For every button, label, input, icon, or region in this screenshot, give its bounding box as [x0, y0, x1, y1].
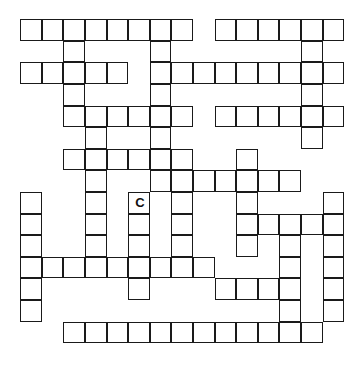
- crossword-cell[interactable]: [20, 19, 42, 41]
- crossword-cell[interactable]: [215, 19, 237, 41]
- crossword-cell[interactable]: [85, 19, 107, 41]
- crossword-cell[interactable]: [128, 106, 150, 128]
- crossword-cell[interactable]: [171, 170, 193, 192]
- crossword-cell[interactable]: [128, 149, 150, 171]
- crossword-cell[interactable]: [20, 62, 42, 84]
- crossword-cell[interactable]: [128, 322, 150, 344]
- crossword-cell[interactable]: [150, 106, 172, 128]
- crossword-cell[interactable]: [301, 106, 323, 128]
- crossword-cell[interactable]: [63, 149, 85, 171]
- crossword-cell[interactable]: [215, 322, 237, 344]
- crossword-cell[interactable]: [279, 19, 301, 41]
- crossword-cell[interactable]: [236, 170, 258, 192]
- crossword-cell[interactable]: [279, 257, 301, 279]
- crossword-cell[interactable]: [171, 214, 193, 236]
- crossword-cell[interactable]: [323, 214, 345, 236]
- crossword-cell[interactable]: [236, 192, 258, 214]
- crossword-cell[interactable]: [258, 106, 280, 128]
- crossword-cell[interactable]: [150, 19, 172, 41]
- crossword-cell[interactable]: [301, 84, 323, 106]
- crossword-cell[interactable]: [171, 235, 193, 257]
- crossword-cell[interactable]: [150, 41, 172, 63]
- crossword-cell[interactable]: [20, 214, 42, 236]
- crossword-cell[interactable]: [20, 300, 42, 322]
- crossword-cell[interactable]: [85, 170, 107, 192]
- crossword-cell[interactable]: [63, 62, 85, 84]
- crossword-cell[interactable]: [279, 106, 301, 128]
- crossword-cell[interactable]: [193, 170, 215, 192]
- crossword-cell[interactable]: [85, 192, 107, 214]
- crossword-cell[interactable]: [323, 19, 345, 41]
- crossword-cell[interactable]: [301, 322, 323, 344]
- crossword-cell[interactable]: [107, 19, 129, 41]
- crossword-cell[interactable]: [150, 62, 172, 84]
- crossword-cell[interactable]: [279, 62, 301, 84]
- crossword-cell[interactable]: [215, 62, 237, 84]
- crossword-cell[interactable]: [63, 19, 85, 41]
- crossword-cell[interactable]: [128, 257, 150, 279]
- crossword-cell[interactable]: [63, 106, 85, 128]
- crossword-cell[interactable]: [215, 170, 237, 192]
- crossword-cell[interactable]: [42, 257, 64, 279]
- crossword-cell[interactable]: [301, 214, 323, 236]
- crossword-cell[interactable]: [258, 170, 280, 192]
- crossword-cell[interactable]: [85, 322, 107, 344]
- crossword-cell[interactable]: [63, 322, 85, 344]
- crossword-cell[interactable]: [193, 62, 215, 84]
- crossword-cell[interactable]: [85, 214, 107, 236]
- crossword-cell[interactable]: [258, 19, 280, 41]
- crossword-cell[interactable]: [150, 149, 172, 171]
- crossword-cell[interactable]: [258, 278, 280, 300]
- crossword-cell[interactable]: [323, 106, 345, 128]
- crossword-cell[interactable]: [171, 322, 193, 344]
- crossword-cell[interactable]: [215, 278, 237, 300]
- crossword-cell[interactable]: [193, 322, 215, 344]
- crossword-cell[interactable]: [42, 62, 64, 84]
- crossword-cell[interactable]: [279, 322, 301, 344]
- crossword-cell[interactable]: [107, 322, 129, 344]
- crossword-cell[interactable]: [63, 41, 85, 63]
- crossword-cell[interactable]: [85, 235, 107, 257]
- crossword-cell[interactable]: [171, 19, 193, 41]
- crossword-cell[interactable]: [128, 214, 150, 236]
- crossword-cell[interactable]: [258, 322, 280, 344]
- crossword-cell[interactable]: [20, 278, 42, 300]
- crossword-cell[interactable]: [85, 106, 107, 128]
- crossword-cell[interactable]: [215, 106, 237, 128]
- crossword-cell[interactable]: [279, 170, 301, 192]
- crossword-cell[interactable]: [85, 257, 107, 279]
- crossword-cell[interactable]: [236, 322, 258, 344]
- crossword-cell[interactable]: [150, 84, 172, 106]
- crossword-cell[interactable]: [63, 84, 85, 106]
- crossword-cell[interactable]: [323, 192, 345, 214]
- crossword-cell[interactable]: [171, 257, 193, 279]
- crossword-cell[interactable]: [236, 106, 258, 128]
- crossword-cell[interactable]: [150, 170, 172, 192]
- crossword-cell[interactable]: [236, 235, 258, 257]
- crossword-cell[interactable]: [85, 149, 107, 171]
- crossword-cell[interactable]: [171, 62, 193, 84]
- crossword-cell[interactable]: [301, 62, 323, 84]
- crossword-cell[interactable]: [279, 214, 301, 236]
- crossword-cell[interactable]: [63, 257, 85, 279]
- crossword-cell[interactable]: [171, 106, 193, 128]
- crossword-cell[interactable]: [236, 62, 258, 84]
- crossword-cell[interactable]: [107, 62, 129, 84]
- crossword-cell[interactable]: [128, 278, 150, 300]
- crossword-cell[interactable]: [279, 235, 301, 257]
- crossword-cell[interactable]: [107, 257, 129, 279]
- crossword-cell[interactable]: [323, 235, 345, 257]
- crossword-cell[interactable]: [193, 257, 215, 279]
- crossword-cell[interactable]: [279, 300, 301, 322]
- crossword-cell[interactable]: [236, 149, 258, 171]
- crossword-cell[interactable]: [323, 278, 345, 300]
- crossword-cell[interactable]: [20, 192, 42, 214]
- crossword-cell[interactable]: [20, 257, 42, 279]
- crossword-cell[interactable]: [107, 149, 129, 171]
- crossword-cell[interactable]: [258, 214, 280, 236]
- crossword-cell[interactable]: [301, 19, 323, 41]
- crossword-cell[interactable]: [323, 257, 345, 279]
- crossword-cell[interactable]: [107, 106, 129, 128]
- crossword-cell[interactable]: [279, 278, 301, 300]
- crossword-cell[interactable]: [128, 235, 150, 257]
